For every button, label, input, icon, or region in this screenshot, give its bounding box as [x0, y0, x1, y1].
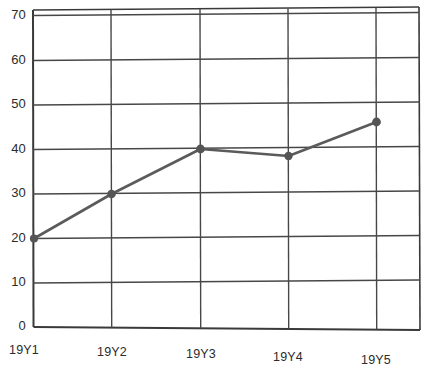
- data-point-19Y3: [196, 145, 205, 154]
- gridline-30: [33, 191, 419, 194]
- ytick-label-0: 0: [2, 318, 26, 333]
- chart-canvas: [0, 0, 425, 372]
- gridline-19Y3: [200, 9, 201, 328]
- xtick-label-19Y1: 19Y1: [9, 343, 39, 357]
- gridline-19Y2: [111, 10, 112, 328]
- gridline-19Y4: [288, 9, 289, 329]
- gridline-60: [33, 58, 419, 61]
- ytick-label-60: 60: [2, 52, 26, 67]
- gridline-20: [33, 236, 419, 239]
- ytick-label-40: 40: [2, 141, 26, 156]
- gridline-50: [33, 102, 419, 105]
- xtick-label-19Y4: 19Y4: [273, 350, 303, 364]
- data-series-line: [34, 122, 377, 239]
- data-point-19Y4: [284, 152, 292, 160]
- gridline-19Y5: [376, 8, 377, 329]
- gridline-40: [33, 147, 419, 150]
- xtick-label-19Y3: 19Y3: [186, 347, 216, 361]
- xtick-label-19Y5: 19Y5: [361, 353, 391, 367]
- ytick-label-10: 10: [2, 274, 26, 289]
- data-point-markers: [30, 118, 381, 243]
- ytick-label-20: 20: [2, 230, 26, 245]
- ytick-label-70: 70: [2, 7, 26, 22]
- data-point-19Y5: [372, 118, 381, 127]
- gridline-70: [33, 13, 419, 16]
- xtick-label-19Y2: 19Y2: [97, 345, 127, 359]
- ytick-label-30: 30: [2, 185, 26, 200]
- data-point-19Y1: [30, 234, 38, 242]
- gridline-10: [33, 280, 419, 283]
- line-chart: 70 60 50 40 30 20 10 0 19Y1 19Y2 19Y3 19…: [0, 0, 425, 372]
- horizontal-gridlines: [33, 13, 419, 284]
- data-point-19Y2: [107, 190, 116, 199]
- ytick-label-50: 50: [2, 96, 26, 111]
